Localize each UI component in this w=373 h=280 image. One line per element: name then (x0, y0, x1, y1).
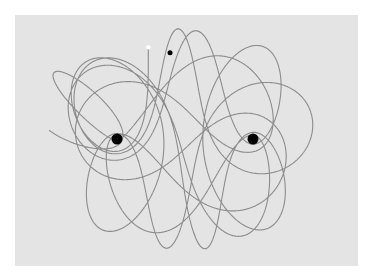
orbit-diagram (0, 0, 373, 280)
mass-2-marker (248, 134, 259, 145)
start-marker (146, 45, 151, 50)
trajectory-path (49, 29, 312, 249)
mass-1-marker (112, 134, 123, 145)
end-marker (168, 50, 173, 55)
